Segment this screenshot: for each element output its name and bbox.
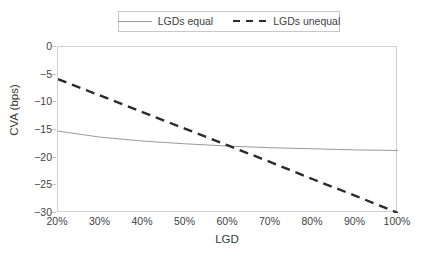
y-tick-label: −30: [6, 207, 52, 218]
x-axis-title: LGD: [57, 233, 397, 245]
y-tick-label: −25: [6, 179, 52, 190]
x-tick-label: 40%: [131, 216, 152, 227]
legend-label-lgds-equal: LGDs equal: [158, 16, 213, 27]
x-tick-label: 70%: [259, 216, 280, 227]
x-tick-label: 50%: [174, 216, 195, 227]
x-tick-label: 60%: [216, 216, 237, 227]
x-tick-label: 30%: [89, 216, 110, 227]
dashed-line-swatch: [233, 17, 267, 26]
solid-line-swatch: [118, 17, 152, 26]
y-tick-mark: [52, 184, 56, 185]
y-tick-mark: [52, 46, 56, 47]
x-tick-label: 90%: [344, 216, 365, 227]
chart-figure: LGDs equal LGDs unequal 0−5−10−15−20−25−…: [0, 0, 429, 261]
legend-entry-lgds-unequal: LGDs unequal: [233, 16, 340, 27]
y-tick-mark: [52, 129, 56, 130]
x-tick-label: 100%: [384, 216, 411, 227]
y-tick-mark: [52, 74, 56, 75]
series-line-lgds-unequal: [58, 79, 398, 213]
x-tick-label: 20%: [46, 216, 67, 227]
x-tick-label: 80%: [301, 216, 322, 227]
plot-area: [57, 46, 397, 212]
legend-entry-lgds-equal: LGDs equal: [118, 16, 213, 27]
legend-label-lgds-unequal: LGDs unequal: [273, 16, 340, 27]
y-tick-mark: [52, 212, 56, 213]
y-axis-title: CVA (bps): [8, 55, 20, 165]
plot-svg: [58, 47, 398, 213]
y-tick-mark: [52, 157, 56, 158]
y-tick-label: 0: [6, 41, 52, 52]
chart-legend: LGDs equal LGDs unequal: [118, 11, 340, 32]
series-line-lgds-equal: [58, 131, 398, 150]
y-tick-mark: [52, 101, 56, 102]
x-axis-ticks: 20%30%40%50%60%70%80%90%100%: [57, 214, 397, 230]
